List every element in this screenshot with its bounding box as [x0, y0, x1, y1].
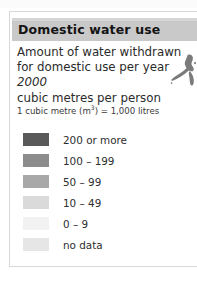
legend-row[interactable]: 50 – 99 — [23, 171, 193, 192]
unit-footnote: 1 cubic metre (m3) = 1,000 litres — [17, 106, 159, 117]
legend-label: 10 – 49 — [63, 197, 101, 209]
footnote-suffix: ) = 1,000 litres — [95, 106, 160, 116]
legend-label: 50 – 99 — [63, 176, 101, 188]
legend-key-list: 200 or more100 – 19950 – 9910 – 490 – 9n… — [23, 129, 193, 255]
legend-label: no data — [63, 239, 103, 251]
description-line-2: for domestic use per year — [17, 60, 189, 75]
description-units: cubic metres per person — [17, 91, 189, 106]
title-bar-highlight — [12, 18, 197, 21]
description-block: Amount of water withdrawn for domestic u… — [17, 45, 189, 106]
legend-row[interactable]: 0 – 9 — [23, 213, 193, 234]
legend-swatch — [23, 238, 49, 251]
legend-row[interactable]: 200 or more — [23, 129, 193, 150]
legend-label: 200 or more — [63, 134, 127, 146]
legend-row[interactable]: 100 – 199 — [23, 150, 193, 171]
legend-row[interactable]: no data — [23, 234, 193, 255]
legend-swatch — [23, 196, 49, 209]
description-year: 2000 — [17, 75, 189, 90]
legend-label: 0 – 9 — [63, 218, 88, 230]
description-line-1: Amount of water withdrawn — [17, 45, 189, 60]
map-legend-panel: Domestic water use Amount of water withd… — [0, 0, 197, 282]
legend-swatch — [23, 217, 49, 230]
legend-swatch — [23, 175, 49, 188]
footnote-prefix: 1 cubic metre (m — [17, 106, 91, 116]
legend-swatch — [23, 154, 49, 167]
legend-box-frame: Domestic water use Amount of water withd… — [9, 11, 197, 267]
legend-label: 100 – 199 — [63, 155, 114, 167]
panel-title: Domestic water use — [18, 22, 160, 37]
legend-swatch — [23, 133, 49, 146]
panel-title-bar: Domestic water use — [12, 18, 197, 41]
legend-row[interactable]: 10 – 49 — [23, 192, 193, 213]
scan-edge-tint — [0, 0, 197, 8]
